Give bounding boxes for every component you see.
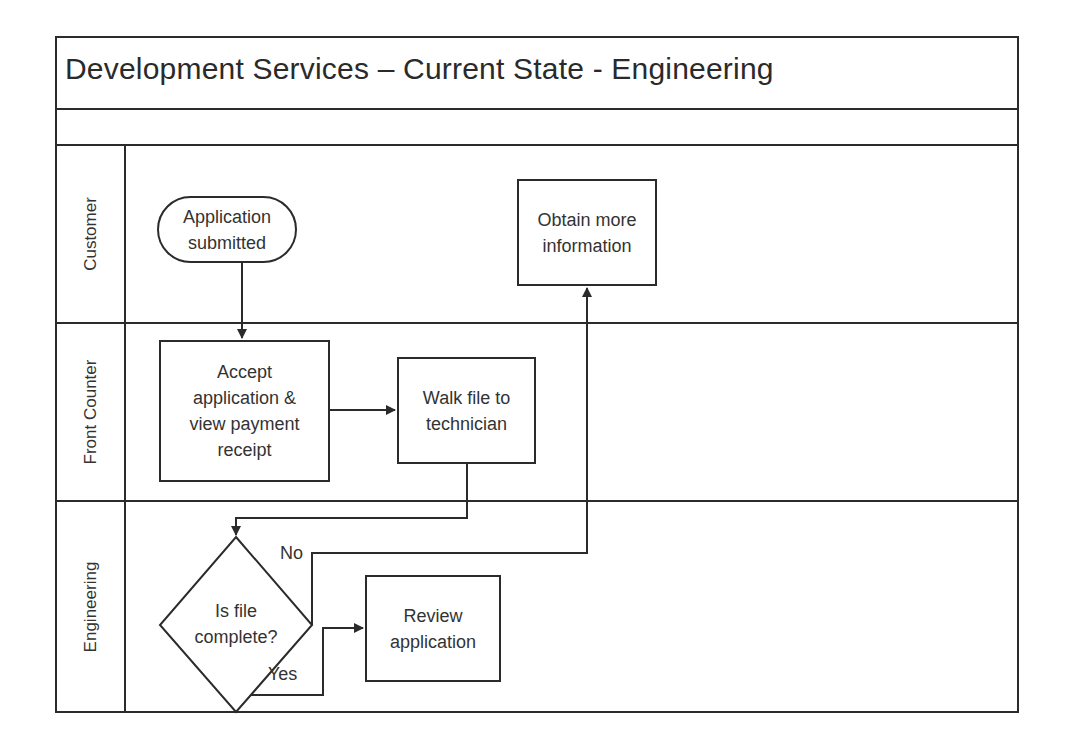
lane-label-text: Front Counter	[81, 360, 101, 465]
node-walk-file-to-technician: Walk file to technician	[397, 357, 536, 464]
lane-label-customer: Customer	[57, 146, 126, 322]
node-obtain-more-information: Obtain more information	[517, 179, 657, 286]
diagram-title: Development Services – Current State - E…	[65, 52, 774, 86]
lane-label-engineering: Engineering	[57, 502, 126, 711]
node-application-submitted: Application submitted	[157, 196, 297, 263]
node-accept-application: Accept application & view payment receip…	[159, 340, 330, 482]
edge-label-no: No	[280, 543, 303, 564]
edge-label-yes: Yes	[268, 664, 297, 685]
title-row: Development Services – Current State - E…	[57, 38, 1017, 110]
node-review-application: Review application	[365, 575, 501, 682]
lane-label-text: Customer	[81, 197, 101, 271]
lane-label-text: Engineering	[81, 561, 101, 652]
node-is-file-complete: Is file complete?	[170, 598, 302, 650]
lane-label-front-counter: Front Counter	[57, 324, 126, 500]
header-spacer-row	[57, 110, 1017, 146]
